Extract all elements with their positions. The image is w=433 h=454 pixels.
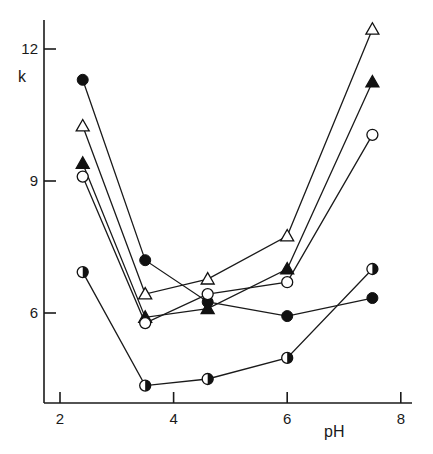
filled-triangle-marker: [281, 263, 294, 274]
markers-filled-circle: [77, 74, 378, 321]
filled-circle-marker: [77, 74, 88, 85]
filled-triangle-marker: [76, 157, 89, 168]
y-axis-label: k: [18, 68, 27, 85]
y-ticks: 6912: [21, 40, 56, 321]
series-filled-triangle: [83, 82, 373, 317]
x-ticks: 2468: [56, 392, 405, 427]
half-circle-marker: [367, 264, 378, 275]
series-open-triangle: [83, 29, 373, 294]
series-half-circle: [83, 269, 373, 386]
half-circle-marker: [140, 380, 151, 391]
filled-circle-marker: [367, 293, 378, 304]
open-triangle-marker: [76, 120, 89, 131]
y-tick-label: 9: [30, 172, 38, 189]
half-circle-marker: [77, 267, 88, 278]
series-line: [83, 135, 373, 323]
open-circle-marker: [140, 318, 151, 329]
series-line: [83, 82, 373, 317]
filled-triangle-marker: [366, 76, 379, 87]
series-line: [83, 80, 373, 316]
x-tick-label: 8: [397, 410, 405, 427]
series-line: [83, 269, 373, 386]
series-open-circle: [83, 135, 373, 323]
y-tick-label: 12: [21, 40, 38, 57]
x-tick-label: 2: [56, 410, 64, 427]
open-circle-marker: [202, 289, 213, 300]
x-tick-label: 6: [283, 410, 291, 427]
open-triangle-marker: [281, 230, 294, 241]
open-circle-marker: [282, 277, 293, 288]
markers-filled-triangle: [76, 76, 379, 323]
x-axis-label: pH: [324, 423, 344, 440]
markers-open-triangle: [76, 23, 379, 299]
open-triangle-marker: [366, 23, 379, 34]
filled-circle-marker: [282, 311, 293, 322]
open-circle-marker: [367, 129, 378, 140]
chart: 2468 6912 pH k: [0, 0, 433, 454]
open-circle-marker: [77, 171, 88, 182]
half-circle-marker: [202, 374, 213, 385]
series-layer: [76, 23, 379, 391]
series-line: [83, 29, 373, 294]
half-circle-marker: [282, 352, 293, 363]
y-tick-label: 6: [30, 304, 38, 321]
open-triangle-marker: [201, 273, 214, 284]
markers-half-circle: [77, 264, 378, 392]
x-tick-label: 4: [169, 410, 177, 427]
series-filled-circle: [83, 80, 373, 316]
filled-circle-marker: [140, 255, 151, 266]
